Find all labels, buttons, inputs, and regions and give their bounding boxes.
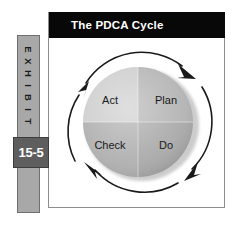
pdca-cycle-diagram: Act Plan Check Do xyxy=(56,42,222,204)
quadrant-label-plan: Plan xyxy=(155,94,177,106)
exhibit-figure: Act Plan Check Do xyxy=(0,0,239,227)
exhibit-sidebar: E X H I B I T xyxy=(17,35,40,213)
exhibit-number-badge: 15-5 xyxy=(13,137,49,168)
quadrant-label-act: Act xyxy=(102,94,118,106)
exhibit-number: 15-5 xyxy=(19,145,44,160)
arrowhead-top-left xyxy=(78,81,89,100)
exhibit-letter-t: T xyxy=(23,119,34,125)
page-title: The PDCA Cycle xyxy=(71,19,163,31)
exhibit-letter-e: E xyxy=(23,46,34,52)
exhibit-letter-i1: I xyxy=(23,84,34,87)
exhibit-letter-b: B xyxy=(23,94,34,101)
quadrant-label-do: Do xyxy=(159,139,173,151)
arrowhead-top-right xyxy=(177,64,196,79)
arrowhead-bottom-left xyxy=(84,162,102,179)
exhibit-letter-h: H xyxy=(23,70,34,77)
quadrant-label-check: Check xyxy=(94,139,126,151)
exhibit-letter-x: X xyxy=(23,58,34,64)
exhibit-label: E X H I B I T xyxy=(18,44,39,128)
arrow-arc-left xyxy=(68,95,79,161)
exhibit-letter-i2: I xyxy=(23,108,34,111)
title-bar: The PDCA Cycle xyxy=(49,12,225,38)
arrowhead-bottom-right xyxy=(184,162,201,181)
